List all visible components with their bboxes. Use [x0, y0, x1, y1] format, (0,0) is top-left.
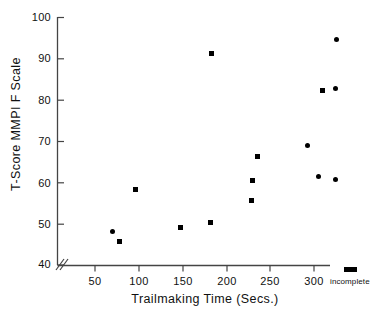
x-tick-label-300: 300 — [299, 275, 329, 287]
x-tick-label-100: 100 — [124, 275, 154, 287]
y-tick-label-90: 90 — [25, 52, 51, 64]
x-tick-label-150: 150 — [168, 275, 198, 287]
data-point — [178, 225, 183, 230]
x-tick-label-250: 250 — [255, 275, 285, 287]
y-tick-label-80: 80 — [25, 94, 51, 106]
x-axis-title: Trailmaking Time (Secs.) — [55, 292, 355, 306]
y-tick-label-40: 40 — [25, 258, 51, 270]
data-point — [117, 239, 122, 244]
data-point — [133, 187, 138, 192]
incomplete-marker-swatch — [344, 267, 357, 272]
incomplete-label: incomplete — [330, 277, 370, 286]
data-point — [249, 198, 254, 203]
data-point — [110, 229, 115, 234]
data-point — [333, 86, 338, 91]
y-tick-label-50: 50 — [25, 218, 51, 230]
plot-axes — [0, 0, 385, 322]
data-point — [255, 154, 260, 159]
y-tick-label-70: 70 — [25, 135, 51, 147]
x-tick-label-200: 200 — [212, 275, 242, 287]
x-tick-label-50: 50 — [80, 275, 110, 287]
y-tick-label-100: 100 — [25, 11, 51, 23]
data-point — [208, 220, 213, 225]
scatter-plot-figure: 100 90 80 70 60 50 40 50 100 150 200 250… — [0, 0, 385, 322]
data-point — [333, 177, 338, 182]
data-point — [209, 51, 214, 56]
y-axis-title-text: T-Score MMPI F Scale — [9, 0, 23, 248]
data-point — [250, 178, 255, 183]
data-point — [320, 88, 325, 93]
y-tick-label-60: 60 — [25, 177, 51, 189]
data-point — [316, 174, 321, 179]
